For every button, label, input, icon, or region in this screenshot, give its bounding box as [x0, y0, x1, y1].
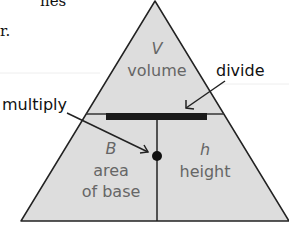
- volume-symbol: V: [152, 40, 163, 58]
- divide-callout: divide: [216, 62, 265, 80]
- volume-label: volume: [127, 62, 186, 80]
- base-area-symbol: B: [106, 140, 117, 158]
- multiply-dot: [152, 151, 162, 161]
- base-area-label-line2: of base: [82, 183, 141, 201]
- multiply-callout: multiply: [2, 96, 67, 114]
- base-area-label-line1: area: [93, 162, 129, 180]
- height-label: height: [180, 163, 231, 181]
- height-symbol: h: [200, 141, 210, 159]
- division-bar: [106, 113, 207, 120]
- volume-formula-triangle: [0, 0, 289, 232]
